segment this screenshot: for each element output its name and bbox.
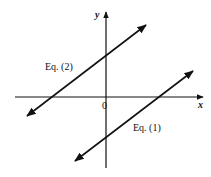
eq-2-label: Eq. (2) [45, 61, 73, 73]
origin-label: 0 [102, 100, 107, 111]
x-axis-label: x [197, 99, 203, 110]
y-axis-label: y [94, 9, 100, 20]
eq-1-label: Eq. (1) [133, 122, 161, 134]
line-eq-1 [75, 71, 193, 161]
coordinate-plane-diagram: y x 0 Eq. (2) Eq. (1) [0, 0, 211, 177]
